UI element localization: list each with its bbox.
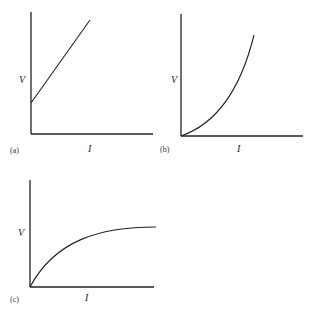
panel-a-curve [31, 20, 90, 103]
iv-diagrams: V I (a) V I (b) V I (c) [0, 0, 312, 316]
panel-c-caption: (c) [10, 295, 19, 304]
panel-c-xlabel: I [84, 292, 89, 303]
panel-a-caption: (a) [10, 146, 19, 155]
panel-c: V I (c) [10, 180, 156, 304]
panel-a-xlabel: I [87, 143, 92, 154]
panel-b-curve [181, 35, 254, 136]
panel-b-ylabel: V [171, 74, 179, 85]
panel-b: V I (b) [160, 14, 303, 154]
panel-a: V I (a) [10, 12, 153, 155]
panel-c-ylabel: V [18, 227, 26, 238]
panel-a-ylabel: V [19, 74, 27, 85]
panel-c-curve [30, 227, 156, 287]
panel-b-xlabel: I [236, 143, 241, 154]
panel-b-caption: (b) [160, 145, 170, 154]
